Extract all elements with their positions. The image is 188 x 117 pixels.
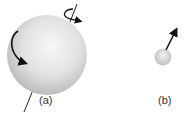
small-sphere: [155, 49, 172, 66]
spin-axis-lower: [24, 90, 33, 112]
vector-arrow-icon: [166, 30, 176, 50]
panel-b: [155, 30, 177, 66]
large-sphere: [7, 15, 87, 95]
panel-a-label: (a): [39, 94, 52, 106]
panel-b-label: (b): [158, 94, 171, 106]
